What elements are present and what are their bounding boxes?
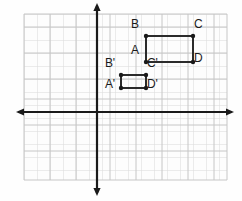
vertex-label-b: B xyxy=(131,18,139,30)
grid-lines xyxy=(24,14,227,180)
vertex-label-a: A xyxy=(131,44,139,56)
vertex-label-a-prime: A' xyxy=(105,78,115,90)
vertex-c xyxy=(191,34,195,38)
vertex-label-d-prime: D' xyxy=(147,78,158,90)
vertex-label-b-prime: B' xyxy=(105,57,115,69)
vertex-a-prime xyxy=(119,86,123,90)
coordinate-plane-figure: A B C D A' B' C' D' xyxy=(0,0,242,201)
vertex-b-prime xyxy=(119,73,123,77)
vertex-label-d: D xyxy=(194,52,202,64)
vertex-label-c: C xyxy=(194,18,202,30)
vertex-label-c-prime: C' xyxy=(147,57,158,69)
coordinate-plane-svg xyxy=(0,0,242,201)
vertex-b xyxy=(144,34,148,38)
